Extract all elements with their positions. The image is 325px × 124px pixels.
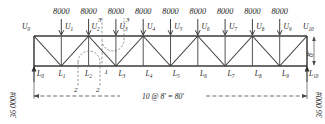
section-label-2-left: 2 (74, 86, 78, 94)
load-label-U8: 8000 (244, 7, 260, 16)
node-label-L10: L10 (308, 69, 319, 79)
diagonal-U8-L9 (252, 36, 279, 66)
load-label-U5: 8000 (162, 7, 178, 16)
node-label-U8: U8 (256, 22, 264, 32)
diagonal-L1-U2 (61, 36, 88, 66)
section-cut-1: 1 (102, 44, 108, 76)
node-label-L2: L2 (84, 69, 92, 79)
node-label-U4: U4 (147, 22, 155, 32)
node-label-U6: U6 (202, 22, 210, 32)
diagonal-L5-U6 (171, 36, 198, 66)
node-label-L1: L1 (58, 69, 66, 79)
diagonal-L3-U4 (116, 36, 143, 66)
load-label-U2: 8000 (80, 7, 96, 16)
node-label-L8: L8 (254, 69, 262, 79)
node-label-L9: L9 (281, 69, 289, 79)
load-arrow-U3 (114, 19, 119, 35)
section-label-1: 1 (105, 68, 109, 76)
section-label-3-left: 3 (97, 16, 102, 24)
bottom-node-labels: L0 L1 L2 L3 L4 L5 L6 L7 L8 L9 L10 (36, 69, 319, 79)
span-dimension-label: 10 @ 8' = 80' (142, 92, 184, 101)
load-label-U4: 8000 (135, 7, 151, 16)
node-label-U9: U9 (284, 22, 292, 32)
node-label-L5: L5 (172, 69, 180, 79)
load-label-U6: 8000 (190, 7, 206, 16)
node-label-L4: L4 (145, 69, 153, 79)
diagonal-L7-U8 (225, 36, 252, 66)
node-label-L3: L3 (118, 69, 126, 79)
diagonal-U6-L7 (198, 36, 225, 66)
diagonal-U4-L5 (143, 36, 170, 66)
node-label-U5: U5 (174, 22, 182, 32)
load-label-U7: 8000 (217, 7, 233, 16)
load-arrow-U1 (59, 19, 64, 35)
load-arrow-U7 (223, 19, 228, 35)
load-label-U3: 8000 (108, 7, 124, 16)
diagonal-U0-L1 (34, 36, 61, 66)
height-dimension-label: 8' (306, 51, 315, 57)
truss-diagram-svg: 8000 8000 8000 8000 8000 8000 8000 8000 … (0, 0, 325, 124)
load-arrow-U9 (277, 19, 282, 35)
node-label-U0: U0 (22, 22, 30, 32)
load-arrow-U2 (86, 19, 91, 35)
section-label-2-right: 2 (96, 86, 100, 94)
node-label-L0: L0 (36, 69, 44, 79)
load-arrow-U6 (195, 19, 200, 35)
node-label-L6: L6 (199, 69, 207, 79)
reaction-label-right: 36 000# (315, 91, 324, 119)
reaction-label-left: 36 000# (9, 91, 18, 119)
truss-diagram-canvas: 8000 8000 8000 8000 8000 8000 8000 8000 … (0, 0, 325, 124)
load-arrow-U8 (250, 19, 255, 35)
load-label-U1: 8000 (53, 7, 69, 16)
node-label-L7: L7 (226, 69, 234, 79)
node-label-U1: U1 (65, 22, 73, 32)
section-label-3-right: 3 (125, 16, 130, 24)
load-arrow-U4 (141, 19, 146, 35)
diagonal-L9-U10 (280, 36, 307, 66)
node-label-U7: U7 (229, 22, 237, 32)
load-arrow-U5 (168, 19, 173, 35)
node-label-U10: U10 (303, 22, 314, 32)
load-label-U9: 8000 (272, 7, 288, 16)
